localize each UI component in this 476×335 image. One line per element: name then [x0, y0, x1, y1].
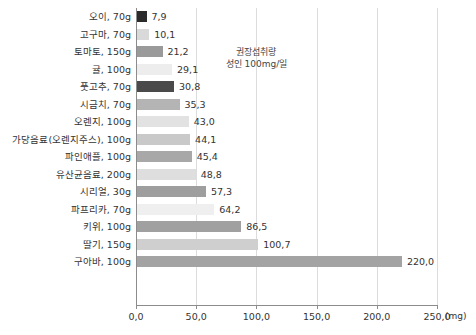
category-label: 토마토, 150g: [0, 43, 131, 61]
value-label: 57,3: [211, 183, 232, 201]
category-label: 파인애플, 100g: [0, 148, 131, 166]
bar: [137, 46, 163, 57]
category-label: 구아바, 100g: [0, 253, 131, 271]
bar: [137, 151, 192, 162]
value-label: 43,0: [194, 113, 215, 131]
category-label: 시리얼, 30g: [0, 183, 131, 201]
bar-row: 가당음료(오렌지주스), 100g44,1: [0, 131, 476, 149]
bar-row: 딸기, 150g100,7: [0, 236, 476, 254]
bar-row: 고구마, 70g10,1: [0, 26, 476, 44]
category-label: 고구마, 70g: [0, 26, 131, 44]
category-label: 파프리카, 70g: [0, 201, 131, 219]
category-label: 시금치, 70g: [0, 96, 131, 114]
value-label: 35,3: [185, 96, 206, 114]
bar-row: 파인애플, 100g45,4: [0, 148, 476, 166]
x-axis-line: [136, 305, 438, 306]
x-tick-label-0: 0,0: [128, 311, 143, 322]
x-tick-label-100: 100,0: [243, 311, 270, 322]
x-tick-mark-150: [317, 305, 318, 309]
bar-row: 시금치, 70g35,3: [0, 96, 476, 114]
bar: [137, 239, 258, 250]
category-label: 오렌지, 100g: [0, 113, 131, 131]
bar: [137, 204, 214, 215]
category-label: 유산균음료, 200g: [0, 166, 131, 184]
bar-row: 파프리카, 70g64,2: [0, 201, 476, 219]
value-label: 48,8: [201, 166, 222, 184]
bar: [137, 221, 241, 232]
x-tick-mark-0: [136, 305, 137, 309]
x-tick-label-50: 50,0: [186, 311, 207, 322]
value-label: 10,1: [154, 26, 175, 44]
value-label: 100,7: [263, 236, 290, 254]
annotation-line-2: 성인 100mg/일: [196, 58, 316, 70]
recommended-intake-annotation: 권장섭취량 성인 100mg/일: [196, 46, 316, 70]
bar: [137, 11, 147, 22]
bar-row: 오렌지, 100g43,0: [0, 113, 476, 131]
bar-row: 오이, 70g7,9: [0, 8, 476, 26]
annotation-line-1: 권장섭취량: [196, 46, 316, 58]
bar-row: 유산균음료, 200g48,8: [0, 166, 476, 184]
x-axis-unit-label: (mg): [445, 311, 467, 321]
bar-row: 시리얼, 30g57,3: [0, 183, 476, 201]
value-label: 30,8: [179, 78, 200, 96]
value-label: 7,9: [152, 8, 167, 26]
category-label: 오이, 70g: [0, 8, 131, 26]
category-label: 딸기, 150g: [0, 236, 131, 254]
category-label: 풋고추, 70g: [0, 78, 131, 96]
value-label: 44,1: [195, 131, 216, 149]
value-label: 220,0: [407, 253, 434, 271]
category-label: 키위, 100g: [0, 218, 131, 236]
x-tick-label-150: 150,0: [303, 311, 330, 322]
x-tick-label-200: 200,0: [363, 311, 390, 322]
bar-row: 구아바, 100g220,0: [0, 253, 476, 271]
bar: [137, 256, 402, 267]
bar: [137, 134, 190, 145]
bar: [137, 186, 206, 197]
bar: [137, 169, 196, 180]
value-label: 64,2: [219, 201, 240, 219]
x-tick-mark-200: [377, 305, 378, 309]
value-label: 21,2: [168, 43, 189, 61]
bar: [137, 99, 180, 110]
value-label: 86,5: [246, 218, 267, 236]
vitamin-c-bar-chart: 오이, 70g7,9고구마, 70g10,1토마토, 150g21,2귤, 10…: [0, 0, 476, 335]
category-label: 가당음료(오렌지주스), 100g: [0, 131, 131, 149]
bar-row: 풋고추, 70g30,8: [0, 78, 476, 96]
bar: [137, 64, 172, 75]
value-label: 45,4: [197, 148, 218, 166]
category-label: 귤, 100g: [0, 61, 131, 79]
x-tick-mark-250: [437, 305, 438, 309]
bar: [137, 29, 149, 40]
x-tick-mark-50: [196, 305, 197, 309]
value-label: 29,1: [177, 61, 198, 79]
bar: [137, 116, 189, 127]
bar: [137, 81, 174, 92]
bar-row: 키위, 100g86,5: [0, 218, 476, 236]
x-tick-mark-100: [256, 305, 257, 309]
